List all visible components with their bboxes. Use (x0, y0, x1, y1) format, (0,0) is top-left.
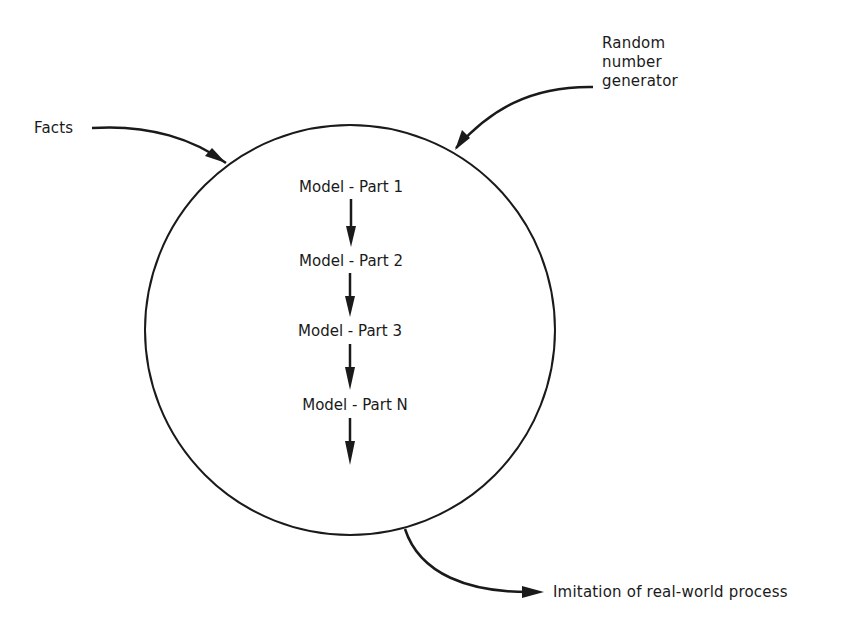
facts-arrow (92, 127, 226, 163)
model-part-3: Model - Part 3 (298, 322, 402, 340)
output-arrow (405, 529, 528, 592)
rng-label-line-1: Random (602, 34, 678, 53)
output-label: Imitation of real-world process (553, 583, 788, 602)
model-part-1: Model - Part 1 (299, 178, 403, 196)
rng-label-line-2: number (602, 53, 678, 72)
rng-arrow (456, 87, 593, 148)
model-part-n: Model - Part N (302, 396, 408, 414)
rng-arrowhead (455, 130, 470, 150)
diagram-canvas (0, 0, 859, 627)
output-arrowhead (522, 586, 544, 598)
facts-label: Facts (34, 119, 73, 138)
rng-label-line-3: generator (602, 72, 678, 91)
rng-label: Random number generator (602, 34, 678, 91)
model-part-2: Model - Part 2 (299, 252, 403, 270)
